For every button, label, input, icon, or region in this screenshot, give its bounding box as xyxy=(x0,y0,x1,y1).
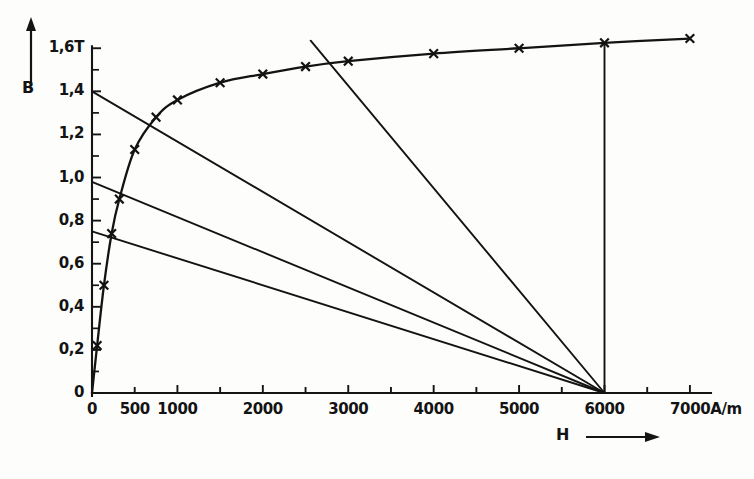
y-axis-tick-label: 1,0 xyxy=(18,168,84,186)
y-axis-arrow-head xyxy=(26,17,36,31)
load-line-4 xyxy=(311,41,605,393)
load-line-1 xyxy=(92,91,605,393)
y-axis-tick-label: 0,8 xyxy=(18,211,84,229)
x-axis-tick-label: 6000 xyxy=(550,400,660,418)
data-point-marker xyxy=(173,96,182,105)
load-line-3 xyxy=(92,231,605,393)
data-series-group xyxy=(92,34,694,393)
y-axis-title: B xyxy=(22,78,34,97)
y-axis-tick-label: 0 xyxy=(18,383,84,401)
y-axis-tick-label: 1,2 xyxy=(18,124,84,142)
magnetization-curve xyxy=(92,39,690,393)
y-axis-tick-label: 1,6T xyxy=(18,38,84,56)
data-point-marker xyxy=(152,113,161,122)
x-axis-title: H xyxy=(556,425,569,444)
axes-group xyxy=(92,46,711,396)
x-axis-tick-label: 7000A/m xyxy=(651,400,754,418)
bh-magnetization-chart: 00,20,40,60,81,01,21,41,6T 0500100020003… xyxy=(0,0,754,479)
y-axis-tick-label: 0,2 xyxy=(18,340,84,358)
data-point-marker xyxy=(130,145,139,154)
load-line-2 xyxy=(92,182,605,393)
y-axis-tick-label: 0,4 xyxy=(18,297,84,315)
y-axis-tick-label: 0,6 xyxy=(18,254,84,272)
x-axis-arrow-head xyxy=(645,432,660,442)
